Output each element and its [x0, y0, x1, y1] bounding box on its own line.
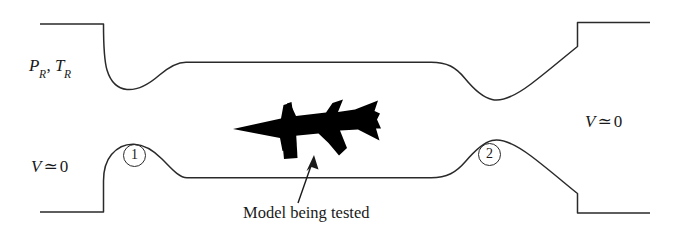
reservoir-label-separator: , [46, 56, 55, 75]
reservoir-temperature-symbol: T [55, 56, 64, 75]
velocity-left-operator: ≃ [41, 157, 59, 176]
velocity-right-symbol: V [585, 112, 595, 131]
velocity-right-value: 0 [614, 112, 623, 131]
station-marker-2: 2 [478, 143, 501, 166]
wind-tunnel-figure: PR, TR V≃0 V≃0 1 2 Model being tested [0, 0, 679, 236]
tunnel-schematic-svg [0, 0, 679, 236]
reservoir-temperature-subscript: R [64, 68, 71, 80]
caption-leader-arrow [298, 155, 319, 203]
velocity-left-value: 0 [60, 157, 69, 176]
velocity-left-label: V≃0 [31, 158, 68, 175]
velocity-right-label: V≃0 [585, 113, 622, 130]
upper-wall-path [40, 23, 650, 101]
reservoir-pressure-symbol: P [29, 56, 39, 75]
reservoir-pressure-subscript: R [39, 68, 46, 80]
aircraft-model-silhouette [233, 100, 381, 160]
reservoir-conditions-label: PR, TR [29, 57, 71, 78]
model-caption: Model being tested [243, 205, 369, 222]
velocity-right-operator: ≃ [595, 112, 613, 131]
station-marker-1: 1 [123, 144, 146, 167]
velocity-left-symbol: V [31, 157, 41, 176]
